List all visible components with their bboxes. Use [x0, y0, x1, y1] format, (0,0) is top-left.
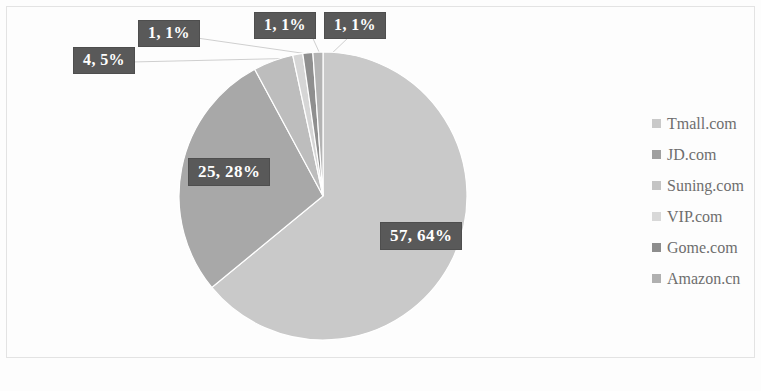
legend-item-suning[interactable]: Suning.com: [652, 170, 760, 201]
data-label-gome: 1, 1%: [255, 13, 315, 38]
chart-legend: Tmall.com JD.com Suning.com VIP.com Gome…: [652, 108, 760, 294]
legend-label-jd: JD.com: [667, 147, 716, 163]
legend-swatch-icon-jd: [652, 150, 661, 159]
legend-item-gome[interactable]: Gome.com: [652, 232, 760, 263]
legend-label-vip: VIP.com: [667, 209, 723, 225]
legend-swatch-icon-vip: [652, 212, 661, 221]
pie-slices: [179, 52, 467, 340]
data-label-jd: 25, 28%: [189, 159, 269, 185]
data-label-tmall: 57, 64%: [381, 223, 461, 249]
data-label-vip: 1, 1%: [139, 21, 199, 46]
legend-swatch-icon-suning: [652, 181, 661, 190]
leader-line-vip: [197, 38, 315, 55]
data-label-amazon: 1, 1%: [325, 13, 385, 38]
legend-swatch-icon-tmall: [652, 119, 661, 128]
legend-label-suning: Suning.com: [667, 178, 744, 194]
legend-item-jd[interactable]: JD.com: [652, 139, 760, 170]
legend-item-vip[interactable]: VIP.com: [652, 201, 760, 232]
data-label-suning: 4, 5%: [74, 48, 134, 73]
legend-label-amazon: Amazon.cn: [667, 271, 740, 287]
legend-item-tmall[interactable]: Tmall.com: [652, 108, 760, 139]
legend-swatch-icon-amazon: [652, 274, 661, 283]
pie-chart-container: 57, 64% 25, 28% 4, 5% 1, 1% 1, 1% 1, 1% …: [0, 0, 761, 391]
legend-label-gome: Gome.com: [667, 240, 738, 256]
legend-item-amazon[interactable]: Amazon.cn: [652, 263, 760, 294]
legend-label-tmall: Tmall.com: [667, 116, 737, 132]
legend-swatch-icon-gome: [652, 243, 661, 252]
